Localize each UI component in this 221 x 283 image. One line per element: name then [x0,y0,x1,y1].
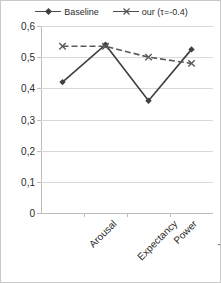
y-tick-label: 0,5 [21,52,35,63]
x-tick-label-valence: Valence [216,218,221,251]
legend-label-our: our (τ=-0.4) [142,7,188,17]
chart-legend: Baseline our (τ=-0.4) [1,4,221,20]
cross-marker-icon [123,8,130,15]
x-tick-mark [84,213,85,217]
diamond-marker-icon [45,8,52,15]
x-tick-mark [170,213,171,217]
series-layer [41,26,213,213]
series-our [59,43,194,67]
y-tick-label: 0,1 [21,176,35,187]
legend-entry-baseline[interactable]: Baseline [35,7,99,17]
series-line [63,46,192,63]
chart-figure: Baseline our (τ=-0.4) 00,10,20,30,40,50,… [0,0,221,283]
legend-key-our [113,7,139,17]
series-baseline [59,42,194,105]
x-tick-label-arousal: Arousal [86,218,118,250]
y-tick-label: 0,6 [21,21,35,32]
legend-entry-our[interactable]: our (τ=-0.4) [113,7,188,17]
series-line [63,45,192,101]
legend-key-baseline [35,7,61,17]
y-tick-label: 0,4 [21,83,35,94]
y-tick-label: 0 [29,208,35,219]
plot-area: 00,10,20,30,40,50,6 ArousalExpectancyPow… [41,26,213,213]
y-tick-mark [37,213,41,214]
x-tick-mark [127,213,128,217]
y-tick-label: 0,2 [21,145,35,156]
y-tick-label: 0,3 [21,114,35,125]
x-tick-label-expectancy: Expectancy [135,218,179,262]
legend-label-baseline: Baseline [64,7,99,17]
